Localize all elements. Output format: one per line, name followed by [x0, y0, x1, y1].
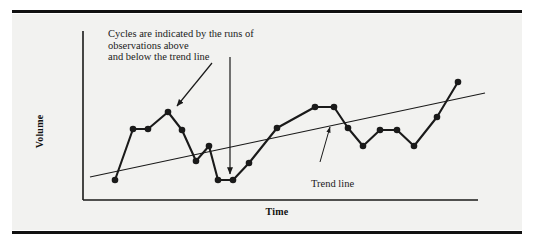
cycles-annotation-line-1: Cycles are indicated by the runs of	[108, 28, 254, 40]
trend-label-leader	[320, 127, 330, 162]
x-axis-title: Time	[237, 206, 317, 217]
bottom-rule	[12, 231, 522, 234]
cycles-annotation-line-2: observations above	[108, 40, 254, 52]
data-point	[394, 127, 401, 134]
data-point-markers	[112, 79, 462, 184]
data-point	[455, 79, 462, 86]
cycles-annotation: Cycles are indicated by the runs of obse…	[108, 28, 254, 63]
data-point	[130, 126, 137, 133]
plot-panel: Volume Time Cycles are indicated by the …	[12, 14, 522, 230]
data-point	[179, 127, 186, 134]
figure-root: Volume Time Cycles are indicated by the …	[0, 0, 534, 245]
diagonal-arrow-to-peak	[177, 63, 212, 106]
trend-line	[90, 93, 485, 177]
data-point	[215, 177, 222, 184]
y-axis-title: Volume	[34, 97, 45, 167]
data-point	[230, 177, 237, 184]
top-rule	[12, 10, 522, 13]
data-point	[193, 158, 200, 165]
data-point	[411, 143, 418, 150]
data-point	[331, 104, 338, 111]
data-series-line	[115, 82, 458, 180]
data-point	[246, 160, 253, 167]
data-point	[312, 104, 319, 111]
trend-line-label: Trend line	[311, 178, 354, 190]
data-point	[360, 143, 367, 150]
data-point	[434, 114, 441, 121]
data-point	[206, 143, 213, 150]
data-point	[165, 109, 172, 116]
cycles-annotation-line-3: and below the trend line	[108, 51, 254, 63]
data-point	[345, 125, 352, 132]
data-point	[145, 126, 152, 133]
data-point	[274, 125, 281, 132]
data-point	[112, 177, 119, 184]
data-point	[377, 127, 384, 134]
chart-svg	[12, 14, 522, 230]
